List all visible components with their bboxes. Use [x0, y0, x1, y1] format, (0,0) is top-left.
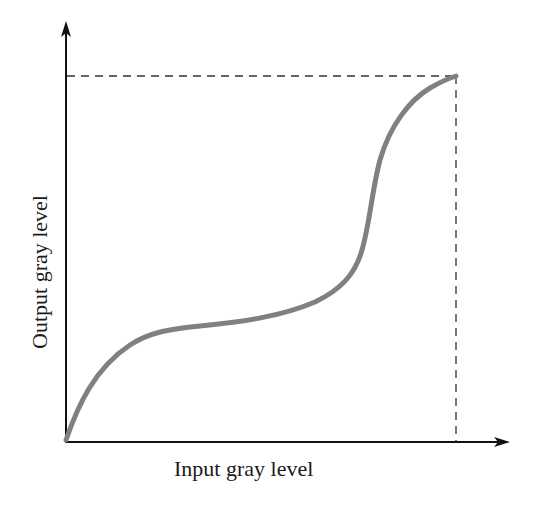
transformation-curve: [66, 76, 456, 440]
plot-canvas: [0, 0, 538, 514]
x-axis-label: Input gray level: [174, 458, 313, 480]
y-axis-label: Output gray level: [29, 195, 51, 349]
transformation-curve-diagram: Input gray level Output gray level: [0, 0, 538, 514]
